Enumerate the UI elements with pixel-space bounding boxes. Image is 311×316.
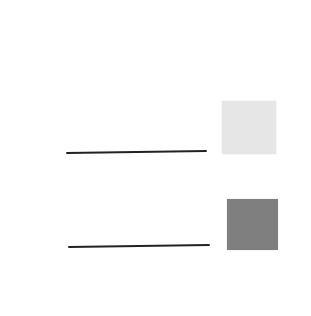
- diagram-canvas: [0, 0, 311, 316]
- light-gray-swatch: [222, 101, 276, 154]
- leader-line-1: [66, 150, 207, 154]
- leader-line-2: [68, 244, 210, 248]
- dark-gray-swatch: [227, 199, 278, 250]
